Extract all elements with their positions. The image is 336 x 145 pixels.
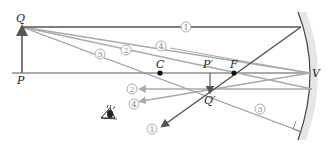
eye-icon bbox=[101, 105, 117, 119]
svg-text:3: 3 bbox=[258, 105, 263, 114]
ray-4-out-badge: 4 bbox=[129, 99, 139, 109]
focal-point-dot bbox=[231, 70, 236, 75]
ray-1-out-badge: 1 bbox=[147, 124, 157, 134]
ray-4-in bbox=[22, 27, 310, 73]
svg-text:1: 1 bbox=[150, 125, 155, 134]
ray-3-out-badge: 3 bbox=[255, 104, 265, 114]
label-Q-prime: Q′ bbox=[204, 94, 216, 107]
label-Q: Q bbox=[16, 12, 25, 25]
center-of-curvature-dot bbox=[157, 70, 162, 75]
ray-diagram-svg: Q P C F P′ Q′ V 1 2 3 4 2 4 1 3 bbox=[0, 0, 336, 145]
label-C: C bbox=[156, 58, 165, 71]
label-P-prime: P′ bbox=[202, 58, 213, 71]
svg-text:3: 3 bbox=[98, 50, 103, 59]
ray-4-back bbox=[170, 48, 310, 73]
ray-4-out bbox=[142, 73, 310, 101]
svg-text:2: 2 bbox=[124, 46, 129, 55]
ray-2-in-badge: 2 bbox=[121, 45, 131, 55]
svg-text:2: 2 bbox=[130, 85, 135, 94]
ray-1-in-badge: 1 bbox=[181, 22, 191, 32]
label-F: F bbox=[229, 58, 238, 71]
svg-text:1: 1 bbox=[184, 23, 189, 32]
ray-3-in-badge: 3 bbox=[95, 49, 105, 59]
svg-text:4: 4 bbox=[132, 100, 137, 109]
label-P: P bbox=[16, 74, 25, 87]
svg-text:4: 4 bbox=[159, 42, 164, 51]
label-V: V bbox=[312, 67, 321, 80]
ray-1-out bbox=[164, 27, 301, 125]
right-angle-mark bbox=[293, 121, 301, 132]
ray-diagram: Q P C F P′ Q′ V 1 2 3 4 2 4 1 3 bbox=[0, 0, 336, 145]
ray-4-in-badge: 4 bbox=[156, 41, 166, 51]
ray-2-out-badge: 2 bbox=[127, 84, 137, 94]
